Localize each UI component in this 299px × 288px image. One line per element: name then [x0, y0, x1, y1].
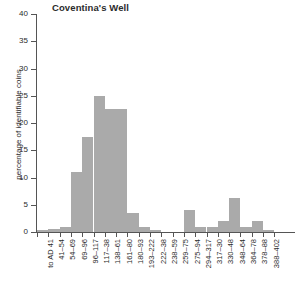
- x-tick-mark: [60, 233, 61, 237]
- y-tick-mark: [31, 96, 36, 97]
- x-tick-label: 161–80: [125, 239, 134, 264]
- x-tick-mark: [48, 233, 49, 237]
- x-tick-label: 54–69: [68, 239, 77, 260]
- x-tick-label: 378–88: [260, 239, 269, 264]
- x-tick-mark: [240, 233, 241, 237]
- bar: [82, 137, 93, 232]
- x-tick-mark: [71, 233, 72, 237]
- x-tick-label: 317–30: [215, 239, 224, 264]
- x-tick-label: 275–94: [193, 239, 202, 264]
- x-tick-mark: [263, 233, 264, 237]
- y-tick-mark: [31, 14, 36, 15]
- y-tick-mark: [31, 205, 36, 206]
- chart-title: Coventina's Well: [52, 2, 129, 13]
- x-tick-label: 222–38: [159, 239, 168, 264]
- y-tick-mark: [31, 178, 36, 179]
- x-tick-label: 69–96: [80, 239, 89, 260]
- x-tick-mark: [105, 233, 106, 237]
- bar: [105, 109, 116, 232]
- x-tick-label: 330–48: [226, 239, 235, 264]
- x-tick-label: 348–64: [238, 239, 247, 264]
- x-tick-mark: [184, 233, 185, 237]
- x-tick-label: 180–93: [136, 239, 145, 264]
- x-tick-label: 41–54: [57, 239, 66, 260]
- x-tick-mark: [229, 233, 230, 237]
- bar: [60, 227, 71, 232]
- bar-series: [37, 14, 295, 232]
- y-tick-label: 30: [19, 64, 28, 73]
- y-tick-label: 15: [19, 145, 28, 154]
- x-tick-mark: [37, 233, 38, 237]
- y-tick-mark: [31, 232, 36, 233]
- x-tick-label: 138–61: [113, 239, 122, 264]
- x-tick-label: 193–222: [147, 239, 156, 268]
- x-tick-mark: [173, 233, 174, 237]
- bar: [94, 96, 105, 232]
- bar: [150, 230, 161, 232]
- x-tick-mark: [218, 233, 219, 237]
- x-tick-mark: [82, 233, 83, 237]
- x-tick-mark: [94, 233, 95, 237]
- x-tick-mark: [127, 233, 128, 237]
- y-tick-label: 20: [19, 118, 28, 127]
- x-tick-mark: [161, 233, 162, 237]
- bar: [252, 221, 263, 232]
- y-tick-mark: [31, 41, 36, 42]
- y-tick-mark: [31, 123, 36, 124]
- x-tick-mark: [274, 233, 275, 237]
- y-tick-label: 0: [24, 227, 28, 236]
- y-tick-label: 10: [19, 173, 28, 182]
- bar: [240, 227, 251, 232]
- bar: [48, 229, 59, 232]
- y-tick-label: 35: [19, 36, 28, 45]
- x-tick-label: 364–78: [249, 239, 258, 264]
- x-tick-label: 294–317: [204, 239, 213, 268]
- x-tick-label: to AD 41: [46, 239, 55, 268]
- x-tick-label: 238–59: [170, 239, 179, 264]
- x-tick-label: 96–117: [91, 239, 100, 263]
- bar: [184, 210, 195, 232]
- x-tick-mark: [150, 233, 151, 237]
- x-tick-mark: [195, 233, 196, 237]
- y-tick-mark: [31, 69, 36, 70]
- bar: [263, 230, 274, 232]
- bar: [207, 227, 218, 232]
- x-tick-label: 259–75: [181, 239, 190, 264]
- bar: [71, 172, 82, 232]
- bar: [127, 213, 138, 232]
- x-axis-line: [36, 232, 295, 233]
- y-tick-mark: [31, 150, 36, 151]
- bar: [195, 227, 206, 232]
- x-tick-label: 388–402: [272, 239, 281, 268]
- x-tick-mark: [139, 233, 140, 237]
- x-tick-mark: [116, 233, 117, 237]
- x-tick-mark: [207, 233, 208, 237]
- y-tick-label: 25: [19, 91, 28, 100]
- bar: [229, 198, 240, 232]
- y-tick-label: 40: [19, 9, 28, 18]
- x-tick-mark: [252, 233, 253, 237]
- bar: [37, 230, 48, 232]
- bar: [139, 227, 150, 232]
- chart-container: Coventina's Well percentage of identifia…: [0, 0, 299, 288]
- x-tick-label: 117–38: [102, 239, 111, 263]
- bar: [218, 221, 229, 232]
- y-tick-label: 5: [24, 200, 28, 209]
- bar: [116, 109, 127, 232]
